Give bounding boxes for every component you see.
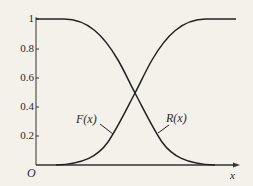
- r-curve-label: R(x): [166, 112, 187, 124]
- r-leader-line: [158, 125, 169, 133]
- f-curve: [56, 19, 236, 165]
- f-curve-label: F(x): [76, 113, 97, 125]
- y-tick-label-0.4: 0.4: [4, 101, 34, 112]
- y-tick-label-0.8: 0.8: [4, 43, 34, 54]
- x-axis-label: x: [230, 169, 235, 181]
- y-tick-label-1: 1: [4, 13, 34, 24]
- y-tick-label-0.6: 0.6: [4, 72, 34, 83]
- chart-plot-area: [0, 0, 253, 186]
- r-curve: [36, 19, 215, 165]
- origin-label: O: [27, 167, 36, 179]
- x-axis-arrow-icon: [233, 163, 240, 168]
- f-leader-line: [100, 124, 113, 134]
- reliability-chart: 1 0.8 0.6 0.4 0.2 O x F(x) R(x): [0, 0, 253, 186]
- y-tick-label-0.2: 0.2: [4, 130, 34, 141]
